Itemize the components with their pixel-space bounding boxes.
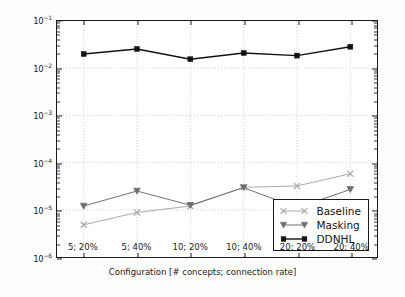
legend-label: Masking [316,219,359,231]
y-tick-mark [57,163,62,164]
y-minor-tick [374,70,377,71]
x-tick-mark [191,21,192,25]
y-minor-tick [374,126,377,127]
y-tick-label: 10−4 [33,157,52,169]
y-minor-tick [57,197,60,198]
x-tick-mark [191,253,192,257]
y-minor-tick [374,218,377,219]
legend-item-masking[interactable]: Masking [279,218,361,232]
x-tick-mark [352,21,353,25]
x-tick-mark [83,21,84,25]
y-minor-tick [57,244,60,245]
y-minor-tick [57,28,60,29]
y-minor-tick [57,182,60,183]
y-minor-tick [57,230,60,231]
y-minor-tick [57,168,60,169]
y-tick-mark [57,211,62,212]
x-tick-mark [298,21,299,25]
y-minor-tick [57,70,60,71]
x-tick-mark [298,253,299,257]
y-minor-tick [374,230,377,231]
y-minor-tick [374,178,377,179]
y-minor-tick [57,120,60,121]
y-minor-tick [374,168,377,169]
y-minor-tick [374,213,377,214]
y-minor-tick [374,82,377,83]
y-tick-mark [372,211,377,212]
x-tick-label: 10; 40% [226,242,261,252]
y-tick-mark [57,259,62,260]
y-minor-tick [57,130,60,131]
y-minor-tick [57,221,60,222]
y-minor-tick [57,216,60,217]
y-minor-tick [374,182,377,183]
y-minor-tick [57,149,60,150]
y-minor-tick [57,23,60,24]
x-tick-label: 10; 20% [173,242,208,252]
y-minor-tick [57,123,60,124]
x-tick-mark [352,253,353,257]
y-minor-tick [374,225,377,226]
y-minor-tick [374,75,377,76]
y-minor-tick [374,141,377,142]
y-minor-tick [57,178,60,179]
x-tick-mark [244,253,245,257]
legend-label: Baseline [316,205,361,217]
y-tick-label: 10−5 [33,204,52,216]
y-tick-mark [372,116,377,117]
y-minor-tick [57,39,60,40]
y-minor-tick [374,123,377,124]
y-minor-tick [57,174,60,175]
y-minor-tick [374,174,377,175]
y-minor-tick [374,120,377,121]
y-minor-tick [374,165,377,166]
masking-marker-icon [279,219,309,231]
y-minor-tick [374,31,377,32]
y-minor-tick [374,118,377,119]
y-minor-tick [374,93,377,94]
y-minor-tick [57,135,60,136]
x-axis-label: Configuration [# concepts; connection ra… [109,267,297,277]
x-tick-mark [137,21,138,25]
y-minor-tick [57,45,60,46]
y-minor-tick [374,149,377,150]
y-minor-tick [57,31,60,32]
y-minor-tick [57,165,60,166]
y-tick-label: 10−2 [33,62,52,74]
y-minor-tick [57,87,60,88]
y-minor-tick [57,54,60,55]
legend-item-baseline[interactable]: Baseline [279,204,361,218]
y-tick-mark [57,116,62,117]
y-minor-tick [57,93,60,94]
y-minor-tick [57,101,60,102]
baseline-marker-icon [279,205,309,217]
y-minor-tick [57,188,60,189]
y-minor-tick [374,54,377,55]
y-minor-tick [57,25,60,26]
plot-area: Baseline Masking DDNHL [56,20,378,258]
y-minor-tick [374,171,377,172]
y-tick-label: 10−3 [33,109,52,121]
y-minor-tick [374,244,377,245]
x-tick-mark [137,253,138,257]
y-minor-tick [57,213,60,214]
x-tick-label: 20; 20% [280,242,315,252]
y-minor-tick [374,39,377,40]
y-minor-tick [57,79,60,80]
y-tick-mark [57,21,62,22]
y-minor-tick [57,171,60,172]
y-minor-tick [374,87,377,88]
y-tick-mark [372,68,377,69]
y-minor-tick [374,135,377,136]
y-tick-mark [372,163,377,164]
y-tick-mark [57,68,62,69]
y-minor-tick [57,225,60,226]
y-minor-tick [374,216,377,217]
y-minor-tick [374,130,377,131]
y-minor-tick [57,75,60,76]
y-minor-tick [57,218,60,219]
y-minor-tick [57,126,60,127]
x-tick-label: 5; 40% [122,242,152,252]
y-tick-mark [372,21,377,22]
y-minor-tick [57,236,60,237]
